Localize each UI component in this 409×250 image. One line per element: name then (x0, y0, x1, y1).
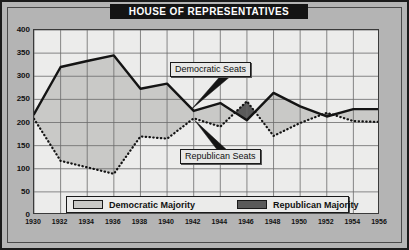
y-tick-label: 150 (17, 140, 30, 149)
plot-area (33, 29, 379, 214)
legend-swatch-republican-icon (237, 200, 267, 209)
annotation-democratic-seats: Democratic Seats (170, 62, 251, 77)
legend-item-republican-majority: Republican Majority (231, 200, 359, 210)
chart-figure: HOUSE OF REPRESENTATIVES 050100150200250… (0, 0, 409, 250)
y-tick-label: 350 (17, 48, 30, 57)
legend-swatch-democratic-icon (73, 200, 103, 209)
x-tick-label: 1948 (265, 218, 281, 225)
y-tick-label: 50 (21, 186, 30, 195)
x-tick-label: 1942 (185, 218, 201, 225)
y-tick-label: 300 (17, 71, 30, 80)
x-tick-label: 1936 (105, 218, 121, 225)
chart-title-banner: HOUSE OF REPRESENTATIVES (110, 4, 308, 19)
annotation-republican-seats-label: Republican Seats (185, 151, 256, 161)
chart-legend: Democratic Majority Republican Majority (66, 196, 349, 213)
plot-wrapper (33, 29, 379, 214)
y-tick-label: 250 (17, 94, 30, 103)
x-tick-label: 1952 (318, 218, 334, 225)
x-tick-label: 1930 (25, 218, 41, 225)
page-title: HOUSE OF REPRESENTATIVES (129, 6, 289, 17)
legend-label-republican: Republican Majority (273, 200, 359, 210)
x-tick-label: 1940 (158, 218, 174, 225)
y-tick-label: 200 (17, 117, 30, 126)
y-tick-label: 400 (17, 25, 30, 34)
x-tick-label: 1944 (212, 218, 228, 225)
x-tick-label: 1954 (345, 218, 361, 225)
x-tick-label: 1956 (371, 218, 387, 225)
y-axis: 050100150200250300350400 (2, 2, 30, 250)
annotation-republican-seats: Republican Seats (180, 149, 261, 164)
y-tick-label: 100 (17, 163, 30, 172)
x-tick-label: 1950 (291, 218, 307, 225)
x-tick-label: 1946 (238, 218, 254, 225)
x-tick-label: 1938 (132, 218, 148, 225)
chart-canvas (34, 30, 379, 214)
legend-label-democratic: Democratic Majority (109, 200, 195, 210)
x-tick-label: 1932 (52, 218, 68, 225)
x-tick-label: 1934 (78, 218, 94, 225)
x-axis: 1930193219341936193819401942194419461948… (2, 218, 409, 232)
annotation-democratic-seats-label: Democratic Seats (175, 64, 246, 74)
legend-item-democratic-majority: Democratic Majority (67, 200, 195, 210)
